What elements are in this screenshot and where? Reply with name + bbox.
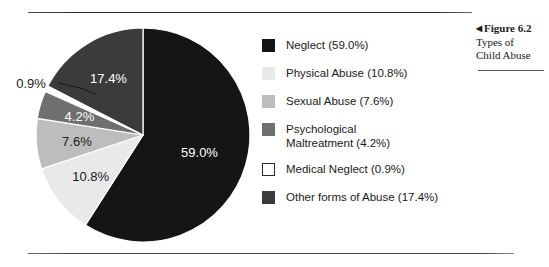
figure-caption-line-1: Types of [476,36,548,49]
figure-caption-line-2: Child Abuse [476,49,548,62]
legend-color-swatch [262,163,275,176]
pie-chart: 59.0%10.8%7.6%4.2%0.9%17.4% [0,0,270,267]
figure-caption: ◀Figure 6.2 Types of Child Abuse [476,22,548,62]
legend-color-swatch [262,123,275,136]
left-triangle-icon: ◀ [476,24,482,33]
legend-color-swatch [262,39,275,52]
figure-number-label: Figure 6.2 [484,22,531,34]
caption-divider-rule [478,70,544,71]
legend-item-label: Sexual Abuse (7.6%) [286,94,393,108]
legend-item-label: Other forms of Abuse (17.4%) [286,190,438,204]
legend-item[interactable]: Other forms of Abuse (17.4%) [262,190,472,206]
legend-item[interactable]: Physical Abuse (10.8%) [262,66,472,82]
legend-item[interactable]: Medical Neglect (0.9%) [262,162,472,178]
pie-slice-value-label: 59.0% [181,145,218,160]
pie-slice-value-label: 10.8% [72,169,109,184]
legend-item-label: Physical Abuse (10.8%) [286,66,407,80]
legend-color-swatch [262,191,275,204]
legend-item-label: Psychological Maltreatment (4.2%) [286,122,390,150]
legend-item[interactable]: Neglect (59.0%) [262,38,472,54]
legend-item[interactable]: Sexual Abuse (7.6%) [262,94,472,110]
legend-item[interactable]: Psychological Maltreatment (4.2%) [262,122,472,150]
legend-color-swatch [262,95,275,108]
pie-slice-value-label: 4.2% [65,109,95,124]
figure-container: ◀Figure 6.2 Types of Child Abuse 59.0%10… [0,0,549,267]
legend-color-swatch [262,67,275,80]
legend-item-label: Neglect (59.0%) [286,38,368,52]
pie-slice-value-label: 7.6% [62,134,92,149]
pie-slice-value-label: 0.9% [16,76,46,91]
chart-legend: Neglect (59.0%)Physical Abuse (10.8%)Sex… [262,38,472,206]
pie-chart-svg: 59.0%10.8%7.6%4.2%0.9%17.4% [0,0,270,267]
legend-item-label: Medical Neglect (0.9%) [286,162,405,176]
figure-caption-title: ◀Figure 6.2 [476,22,548,36]
pie-slice-value-label: 17.4% [90,71,127,86]
